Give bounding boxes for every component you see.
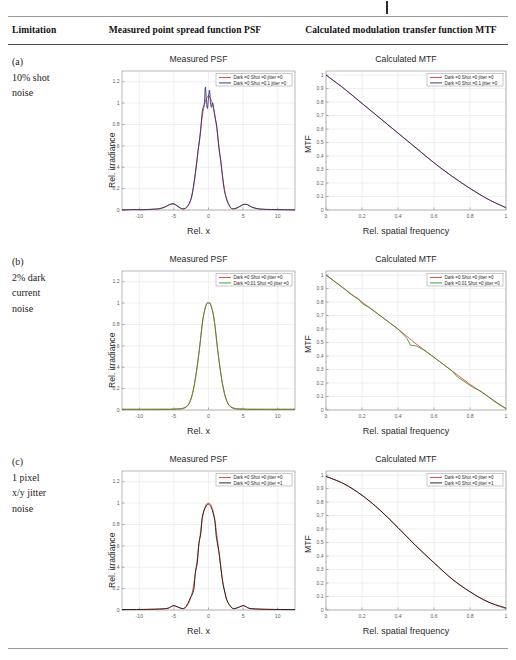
svg-text:0.6: 0.6: [316, 526, 323, 532]
svg-text:0.7: 0.7: [316, 512, 323, 518]
svg-text:0.5: 0.5: [316, 339, 323, 345]
svg-text:1: 1: [505, 413, 508, 419]
svg-text:0.6: 0.6: [430, 413, 437, 419]
figure-b-mtf: Calculated MTF 00.20.40.60.8100.10.20.30…: [300, 252, 512, 442]
svg-text:0.6: 0.6: [430, 213, 437, 219]
svg-text:10: 10: [275, 413, 281, 419]
svg-text:0.6: 0.6: [316, 326, 323, 332]
svg-text:0.4: 0.4: [316, 553, 323, 559]
page-margin-mark: [386, 1, 388, 14]
mtf-plot-a: 00.20.40.60.8100.10.20.30.40.50.60.70.80…: [300, 66, 512, 226]
svg-text:-5: -5: [172, 413, 177, 419]
svg-text:0.4: 0.4: [316, 353, 323, 359]
svg-text:0.3: 0.3: [316, 166, 323, 172]
chart-title: Calculated MTF: [300, 54, 512, 64]
svg-text:-5: -5: [172, 613, 177, 619]
y-axis-label: MTF: [303, 335, 313, 353]
row-c-line-3: noise: [12, 501, 82, 517]
svg-text:Dark =0 Shot =0 jitter =0: Dark =0 Shot =0 jitter =0: [445, 275, 494, 280]
svg-text:1.2: 1.2: [112, 78, 119, 84]
svg-text:Dark =0 Shot =0 jitter =0: Dark =0 Shot =0 jitter =0: [234, 75, 283, 80]
svg-text:0.1: 0.1: [316, 593, 323, 599]
x-axis-label: Rel. x: [96, 226, 301, 236]
row-b-line-0: (b): [12, 254, 82, 270]
mtf-plot-b: 00.20.40.60.8100.10.20.30.40.50.60.70.80…: [300, 266, 512, 426]
svg-text:0: 0: [321, 207, 324, 213]
svg-text:0.3: 0.3: [316, 366, 323, 372]
svg-text:1.2: 1.2: [112, 478, 119, 484]
svg-text:0.7: 0.7: [316, 112, 323, 118]
x-axis-label: Rel. spatial frequency: [300, 226, 512, 236]
header-mtf: Calculated modulation transfer function …: [291, 25, 511, 35]
x-axis-label: Rel. x: [96, 626, 301, 636]
row-c-line-0: (c): [12, 454, 82, 470]
svg-text:0.5: 0.5: [316, 539, 323, 545]
svg-text:0.8: 0.8: [466, 213, 473, 219]
svg-text:10: 10: [275, 213, 281, 219]
mtf-plot-c: 00.20.40.60.8100.10.20.30.40.50.60.70.80…: [300, 466, 512, 626]
row-a-line-2: noise: [12, 85, 82, 101]
y-axis-label: Rel. irradiance: [107, 333, 117, 388]
figure-c-mtf: Calculated MTF 00.20.40.60.8100.10.20.30…: [300, 452, 512, 642]
svg-text:-10: -10: [136, 613, 144, 619]
psf-plot-c: -10-5051000.20.40.60.811.2Dark =0 Shot =…: [96, 466, 301, 626]
svg-text:0.5: 0.5: [316, 139, 323, 145]
svg-text:1.2: 1.2: [112, 278, 119, 284]
svg-text:0.2: 0.2: [358, 213, 365, 219]
svg-text:0: 0: [325, 413, 328, 419]
chart-title: Measured PSF: [96, 454, 301, 464]
psf-plot-b: -10-5051000.20.40.60.811.2Dark =0 Shot =…: [96, 266, 301, 426]
y-axis-label: Rel. irradiance: [107, 533, 117, 588]
svg-text:1: 1: [117, 300, 120, 306]
figure-a-psf: Measured PSF -10-5051000.20.40.60.811.2D…: [96, 52, 301, 242]
svg-text:10: 10: [275, 613, 281, 619]
svg-text:1: 1: [321, 72, 324, 78]
chart-title: Calculated MTF: [300, 454, 512, 464]
psf-plot-a: -10-5051000.20.40.60.811.2Dark =0 Shot =…: [96, 66, 301, 226]
y-axis-label: MTF: [303, 535, 313, 553]
row-label-c: (c) 1 pixel x/y jitter noise: [12, 454, 82, 516]
svg-text:0: 0: [325, 213, 328, 219]
svg-text:Dark =0 Shot =0.1 jitter =0: Dark =0 Shot =0.1 jitter =0: [445, 81, 498, 86]
svg-text:-10: -10: [136, 213, 144, 219]
svg-text:0: 0: [207, 213, 210, 219]
svg-text:-10: -10: [136, 413, 144, 419]
svg-text:1: 1: [117, 500, 120, 506]
x-axis-label: Rel. spatial frequency: [300, 426, 512, 436]
svg-text:0.1: 0.1: [316, 193, 323, 199]
svg-text:0.8: 0.8: [466, 413, 473, 419]
row-b-line-1: 2% dark: [12, 270, 82, 286]
svg-text:0.8: 0.8: [112, 321, 119, 327]
figure-c-psf: Measured PSF -10-5051000.20.40.60.811.2D…: [96, 452, 301, 642]
svg-text:0.2: 0.2: [316, 180, 323, 186]
table-bottom-rule: [8, 648, 508, 649]
table-header-rule: [8, 44, 508, 45]
y-axis-label: Rel. irradiance: [107, 133, 117, 188]
svg-text:1: 1: [321, 272, 324, 278]
table-row: (a) 10% shot noise Measured PSF -10-5051…: [0, 52, 516, 257]
svg-text:0: 0: [321, 407, 324, 413]
x-axis-label: Rel. spatial frequency: [300, 626, 512, 636]
svg-text:0.9: 0.9: [316, 85, 323, 91]
svg-text:0.4: 0.4: [394, 613, 401, 619]
x-axis-label: Rel. x: [96, 426, 301, 436]
svg-text:Dark =0 Shot =0.1 jitter =0: Dark =0 Shot =0.1 jitter =0: [234, 81, 287, 86]
svg-text:Dark =0.01 Shot =0 jitter =0: Dark =0.01 Shot =0 jitter =0: [445, 281, 501, 286]
svg-text:0: 0: [207, 613, 210, 619]
svg-text:0.4: 0.4: [316, 153, 323, 159]
header-limitation: Limitation: [12, 25, 56, 35]
chart-title: Measured PSF: [96, 254, 301, 264]
svg-text:0: 0: [117, 607, 120, 613]
figure-b-psf: Measured PSF -10-5051000.20.40.60.811.2D…: [96, 252, 301, 442]
svg-text:0.6: 0.6: [430, 613, 437, 619]
svg-text:1: 1: [117, 100, 120, 106]
header-psf: Measured point spread function PSF: [79, 25, 291, 35]
table-top-rule: [8, 16, 508, 17]
svg-text:Dark =0 Shot =0 jitter =1: Dark =0 Shot =0 jitter =1: [234, 481, 283, 486]
svg-text:0.8: 0.8: [112, 121, 119, 127]
figure-a-mtf: Calculated MTF 00.20.40.60.8100.10.20.30…: [300, 52, 512, 242]
svg-text:0.2: 0.2: [316, 580, 323, 586]
svg-text:0: 0: [207, 413, 210, 419]
svg-text:Dark =0 Shot =0 jitter =0: Dark =0 Shot =0 jitter =0: [445, 75, 494, 80]
row-c-line-1: 1 pixel: [12, 470, 82, 486]
